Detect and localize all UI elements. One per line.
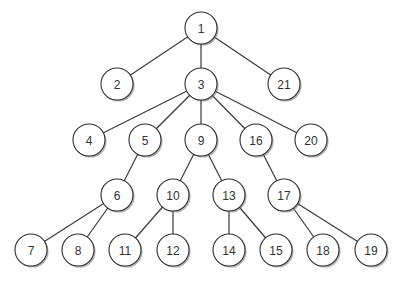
node-label: 10 (166, 189, 180, 203)
node-label: 5 (142, 134, 149, 148)
tree-node-11: 11 (109, 234, 143, 268)
node-label: 13 (222, 189, 236, 203)
node-label: 16 (249, 134, 263, 148)
node-label: 17 (277, 189, 291, 203)
node-label: 12 (166, 244, 180, 258)
tree-node-9: 9 (185, 124, 219, 158)
node-label: 20 (304, 134, 318, 148)
node-label: 8 (75, 244, 82, 258)
tree-node-5: 5 (129, 124, 163, 158)
tree-node-18: 18 (307, 234, 341, 268)
tree-node-4: 4 (73, 124, 107, 158)
tree-node-14: 14 (213, 234, 247, 268)
node-label: 9 (198, 134, 205, 148)
tree-node-1: 1 (185, 12, 219, 46)
tree-nodes: 123214591620610131778111214151819 (15, 12, 389, 268)
node-label: 2 (114, 78, 121, 92)
node-label: 21 (277, 78, 291, 92)
tree-node-19: 19 (355, 234, 389, 268)
tree-node-20: 20 (295, 124, 329, 158)
tree-node-15: 15 (260, 234, 294, 268)
tree-node-8: 8 (62, 234, 96, 268)
node-label: 18 (316, 244, 330, 258)
node-label: 4 (86, 134, 93, 148)
tree-node-7: 7 (15, 234, 49, 268)
node-label: 3 (198, 78, 205, 92)
node-label: 14 (222, 244, 236, 258)
node-label: 19 (364, 244, 378, 258)
node-label: 11 (119, 244, 132, 258)
tree-node-12: 12 (157, 234, 191, 268)
tree-node-17: 17 (268, 179, 302, 213)
tree-node-13: 13 (213, 179, 247, 213)
node-label: 15 (269, 244, 283, 258)
tree-node-6: 6 (101, 179, 135, 213)
node-label: 6 (114, 189, 121, 203)
node-label: 7 (28, 244, 35, 258)
tree-node-16: 16 (240, 124, 274, 158)
tree-node-21: 21 (268, 68, 302, 102)
tree-diagram: 123214591620610131778111214151819 (0, 0, 399, 282)
node-label: 1 (198, 22, 205, 36)
tree-node-2: 2 (101, 68, 135, 102)
tree-node-3: 3 (185, 68, 219, 102)
figure-caption-cropped (0, 274, 399, 282)
